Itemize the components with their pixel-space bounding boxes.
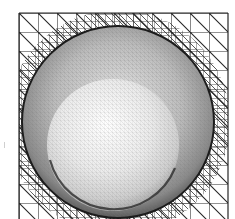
stray-mark xyxy=(4,142,5,148)
mesh-illustration xyxy=(0,0,235,219)
rendered-mesh-scene xyxy=(0,0,235,219)
sphere xyxy=(47,79,179,211)
